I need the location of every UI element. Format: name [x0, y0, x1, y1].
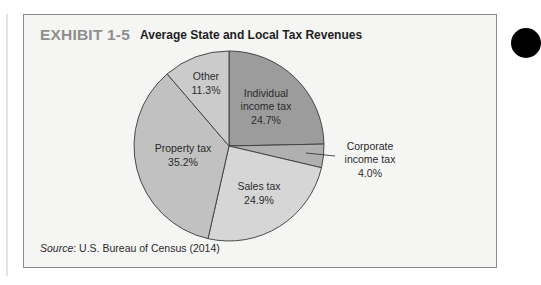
svg-text:35.2%: 35.2% — [168, 156, 198, 168]
svg-text:Individual: Individual — [244, 87, 288, 99]
svg-text:Other: Other — [193, 70, 220, 82]
svg-text:income tax: income tax — [345, 153, 397, 165]
svg-text:Property tax: Property tax — [155, 142, 212, 154]
svg-text:Sales tax: Sales tax — [237, 180, 281, 192]
svg-text:income tax: income tax — [241, 100, 293, 112]
page-bullet-marker — [511, 28, 541, 58]
label-corporate: Corporate income tax 4.0% — [345, 140, 397, 179]
svg-text:Corporate: Corporate — [347, 140, 394, 152]
svg-text:4.0%: 4.0% — [358, 167, 382, 179]
svg-text:24.9%: 24.9% — [244, 194, 274, 206]
svg-text:24.7%: 24.7% — [251, 114, 281, 126]
svg-text:11.3%: 11.3% — [192, 84, 221, 96]
